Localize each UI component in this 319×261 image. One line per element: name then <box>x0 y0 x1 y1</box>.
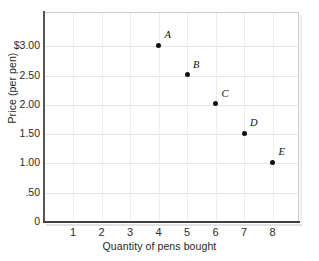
gridline-horizontal <box>44 193 298 194</box>
gridline-vertical <box>187 13 188 221</box>
x-axis-tick-label: 5 <box>175 226 199 238</box>
y-axis-shadow <box>300 15 302 223</box>
scatter-chart-figure: Price (per pen) Quantity of pens bought … <box>0 0 319 261</box>
y-axis-tick-label: 0 <box>0 215 40 227</box>
y-axis-tick-label: 1.50 <box>0 127 40 139</box>
data-point-label-d: D <box>250 117 258 128</box>
data-point-label-b: B <box>193 59 199 70</box>
gridline-vertical <box>73 13 74 221</box>
data-point-d[interactable] <box>242 131 247 136</box>
y-axis-tick-label: .50 <box>0 186 40 198</box>
x-axis-tick-label: 7 <box>232 226 256 238</box>
gridline-horizontal <box>44 134 298 135</box>
data-point-b[interactable] <box>185 72 190 77</box>
gridline-horizontal <box>44 105 298 106</box>
x-axis-title: Quantity of pens bought <box>0 240 319 252</box>
gridline-vertical <box>273 13 274 221</box>
y-axis-tick-label: 2.50 <box>0 69 40 81</box>
x-axis-tick-label: 1 <box>61 226 85 238</box>
data-point-label-e: E <box>279 146 285 157</box>
gridline-horizontal <box>44 163 298 164</box>
gridline-vertical <box>130 13 131 221</box>
y-axis-tick-label: 2.00 <box>0 98 40 110</box>
gridline-horizontal <box>44 46 298 47</box>
x-axis-tick-label: 4 <box>147 226 171 238</box>
x-axis-line <box>43 221 300 223</box>
gridline-vertical <box>102 13 103 221</box>
data-point-label-a: A <box>165 29 171 40</box>
gridline-vertical <box>216 13 217 221</box>
y-axis-tick-label: 1.00 <box>0 156 40 168</box>
gridline-horizontal <box>44 76 298 77</box>
y-axis-line <box>43 11 45 223</box>
x-axis-tick-label: 8 <box>261 226 285 238</box>
data-point-a[interactable] <box>156 43 161 48</box>
gridline-vertical <box>244 13 245 221</box>
data-point-e[interactable] <box>270 160 275 165</box>
x-axis-tick-label: 6 <box>204 226 228 238</box>
plot-area <box>44 12 299 221</box>
x-axis-tick-label: 3 <box>118 226 142 238</box>
x-axis-tick-label: 2 <box>90 226 114 238</box>
data-point-label-c: C <box>222 88 229 99</box>
y-axis-tick-label: $3.00 <box>0 39 40 51</box>
